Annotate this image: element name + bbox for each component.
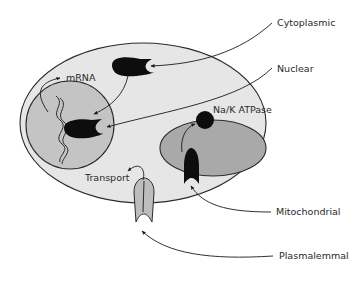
mitochondrion bbox=[160, 120, 266, 176]
transport-label: Transport bbox=[84, 172, 130, 183]
nuclear-label: Nuclear bbox=[277, 63, 314, 74]
plasmalemmal-label: Plasmalemmal bbox=[279, 250, 349, 261]
cytoplasmic-label: Cytoplasmic bbox=[277, 17, 335, 28]
mitochondrial-label: Mitochondrial bbox=[276, 206, 341, 217]
na-k-atpase-label: Na/K ATPase bbox=[213, 104, 272, 115]
cell-receptor-diagram: mRNA Na/K ATPase Transport Cytoplasmic N… bbox=[0, 0, 362, 282]
plasmalemmal-callout-line bbox=[142, 231, 273, 257]
na-k-atpase-icon bbox=[196, 111, 214, 129]
mrna-label: mRNA bbox=[66, 72, 96, 83]
